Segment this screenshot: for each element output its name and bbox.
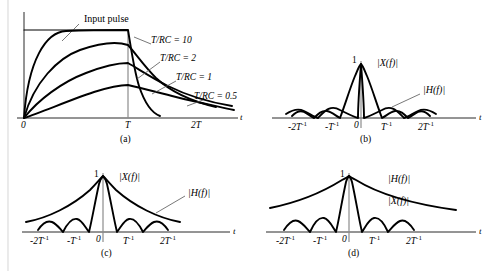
panel-d-label-h-f: |H(f)| xyxy=(388,174,410,184)
panel-b-axis-label: t xyxy=(479,113,482,122)
panel-c-tick-neg1: -T-1 xyxy=(67,235,81,247)
panel-c-tick-neg2: -2T-1 xyxy=(30,235,49,247)
panel-b-peak-label: 1 xyxy=(352,56,357,66)
panel-b-tick-neg1: -T-1 xyxy=(325,121,339,133)
panel-c-tick-pos2: 2T-1 xyxy=(160,235,176,247)
panel-d-tick-pos2: 2T-1 xyxy=(406,235,422,247)
panel-d-graphics xyxy=(266,173,476,242)
panel-a-graphics xyxy=(17,12,238,118)
panel-d-curve-h-f xyxy=(270,176,456,210)
panel-d-tick-neg1: -T-1 xyxy=(313,235,327,247)
panel-b-label-x-f: |X(f)| xyxy=(377,58,398,68)
panel-a-input-pulse-leader xyxy=(62,24,79,41)
panel-c-tick-pos1: T-1 xyxy=(123,235,134,247)
panel-a-label-trc-2: T/RC = 2 xyxy=(160,54,196,64)
panel-a-label-trc-10: T/RC = 10 xyxy=(151,36,192,46)
panel-a-curve-trc-10 xyxy=(24,30,160,118)
panel-b-tick-pos2: 2T-1 xyxy=(418,121,434,133)
panel-b-tick-zero: 0 xyxy=(354,121,359,131)
panel-b-leader-h-f xyxy=(392,94,420,107)
panel-a-label-trc-0p5: T/RC = 0.5 xyxy=(194,92,237,102)
panel-c-tick-zero: 0 xyxy=(96,235,101,245)
panel-a-axis-label: t xyxy=(240,113,243,122)
panel-d-label-x-f: |X(f)| xyxy=(388,196,409,206)
panel-a-caption: (a) xyxy=(120,135,131,145)
panel-a-input-pulse-label: Input pulse xyxy=(84,14,129,24)
panel-a-leader-trc-10 xyxy=(134,37,151,44)
panel-b-caption: (b) xyxy=(360,135,371,145)
panel-b-graphics xyxy=(272,61,476,128)
panel-d-tick-neg2: -2T-1 xyxy=(276,235,295,247)
panel-d-peak-label: 1 xyxy=(340,170,345,180)
panel-c-peak-label: 1 xyxy=(94,170,99,180)
panel-c-graphics xyxy=(22,173,230,242)
panel-c-label-h-f: |H(f)| xyxy=(188,188,210,198)
panel-c-caption: (c) xyxy=(101,249,112,259)
panel-c-axis-label: t xyxy=(233,227,236,236)
panel-b-tick-pos1: T-1 xyxy=(381,121,392,133)
panel-d-caption: (d) xyxy=(348,249,359,259)
panel-c-leader-h-f xyxy=(156,196,185,213)
figure-canvas: Input pulse T/RC = 10 T/RC = 2 T/RC = 1 … xyxy=(0,0,491,271)
panel-a-tick-t: T xyxy=(125,121,130,131)
panel-a-tick-0: 0 xyxy=(21,121,26,131)
panel-c-label-x-f: |X(f)| xyxy=(119,172,140,182)
panel-d-tick-zero: 0 xyxy=(342,235,347,245)
panel-d-tick-pos1: T-1 xyxy=(369,235,380,247)
figure-graphics xyxy=(0,0,491,271)
panel-a-label-trc-1: T/RC = 1 xyxy=(176,73,212,83)
panel-b-label-h-f: |H(f)| xyxy=(423,85,445,95)
panel-d-axis-label: t xyxy=(479,227,482,236)
panel-b-tick-neg2: -2T-1 xyxy=(288,121,307,133)
panel-a-tick-2t: 2T xyxy=(191,121,201,131)
